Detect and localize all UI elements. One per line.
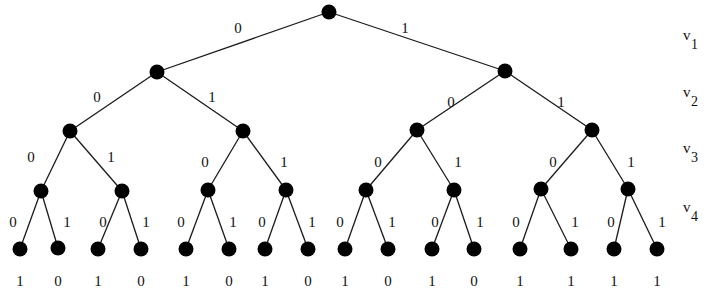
leaf-node [467, 242, 482, 257]
edge-label: 1 [107, 149, 115, 165]
edge-label: 0 [258, 214, 266, 230]
edge-label: 0 [374, 154, 382, 170]
leaf-value: 0 [304, 273, 312, 289]
tree-node [34, 184, 49, 199]
tree-node [201, 183, 216, 198]
tree-edge [265, 190, 286, 249]
edge-label: 1 [401, 20, 409, 36]
tree-edge [345, 190, 366, 249]
tree-node [63, 124, 78, 139]
decision-tree-diagram: 010101010101010101010101010101 101010101… [0, 0, 711, 294]
leaf-value: 1 [182, 273, 190, 289]
tree-edge [122, 191, 141, 249]
tree-edge [41, 191, 58, 248]
edge-label: 1 [571, 214, 579, 230]
leaf-value: 1 [567, 273, 575, 289]
tree-edge [186, 190, 208, 249]
leaf-node [607, 242, 622, 257]
tree-edge [329, 12, 505, 71]
edge-label: 0 [447, 94, 455, 110]
tree-edge [286, 190, 308, 249]
leaf-node [338, 242, 353, 257]
tree-node [410, 123, 425, 138]
leaf-node [564, 242, 579, 257]
tree-edge [41, 131, 70, 191]
leaf-value: 1 [341, 273, 349, 289]
edge-label: 1 [627, 154, 635, 170]
tree-edge [20, 191, 41, 249]
leaf-node [91, 242, 106, 257]
edge-label: 0 [234, 20, 242, 36]
tree-node [447, 183, 462, 198]
edge-label: 0 [201, 154, 209, 170]
tree-edge [520, 189, 541, 249]
variable-labels-layer: v1v2v3v4 [683, 27, 698, 224]
tree-edge [541, 189, 571, 249]
variable-subscript: 2 [691, 94, 698, 109]
leaf-value: 0 [384, 273, 392, 289]
edge-label: 1 [454, 154, 462, 170]
edge-label: 1 [142, 214, 150, 230]
edge-label: 1 [388, 214, 396, 230]
edge-label: 1 [476, 214, 484, 230]
tree-node [236, 124, 251, 139]
leaf-values-layer: 1010101010101111 [16, 273, 661, 289]
leaf-value: 1 [516, 273, 524, 289]
tree-edge [366, 190, 388, 249]
leaf-node [13, 242, 28, 257]
variable-subscript: 1 [691, 37, 698, 52]
edge-label: 1 [557, 94, 565, 110]
tree-edge [417, 130, 454, 190]
tree-edge [614, 189, 628, 249]
edge-label: 1 [63, 214, 71, 230]
edge-label: 0 [27, 149, 35, 165]
variable-subscript: 4 [691, 209, 698, 224]
tree-edge [208, 190, 229, 249]
leaf-node [425, 242, 440, 257]
leaf-value: 1 [428, 273, 436, 289]
edge-label: 0 [177, 214, 185, 230]
variable-label: v [683, 84, 691, 100]
leaf-value: 1 [94, 273, 102, 289]
leaf-node [650, 242, 665, 257]
tree-node [279, 183, 294, 198]
edge-label: 1 [229, 214, 237, 230]
leaf-node [513, 242, 528, 257]
edge-label: 0 [93, 89, 101, 105]
leaf-node [51, 241, 66, 256]
leaf-node [134, 242, 149, 257]
edge-label: 1 [208, 89, 216, 105]
edge-label: 0 [99, 214, 107, 230]
leaf-node [222, 242, 237, 257]
tree-edge [208, 131, 243, 190]
tree-edge [628, 189, 657, 249]
edge-label: 0 [336, 214, 344, 230]
leaf-node [381, 242, 396, 257]
edge-label: 0 [549, 154, 557, 170]
edge-label: 1 [658, 214, 666, 230]
tree-node [359, 183, 374, 198]
leaf-value: 0 [137, 273, 145, 289]
leaf-value: 1 [16, 273, 24, 289]
leaf-node [258, 242, 273, 257]
edge-labels-layer: 010101010101010101010101010101 [9, 20, 666, 230]
leaf-value: 0 [470, 273, 478, 289]
variable-label: v [683, 199, 691, 215]
variable-label: v [683, 140, 691, 156]
variable-label: v [683, 27, 691, 43]
leaf-value: 0 [54, 273, 62, 289]
tree-node [534, 182, 549, 197]
leaf-value: 1 [653, 273, 661, 289]
edge-label: 1 [308, 214, 316, 230]
tree-node [498, 64, 513, 79]
tree-edge [417, 71, 505, 130]
tree-node [150, 65, 165, 80]
tree-edge [157, 72, 243, 131]
leaf-node [179, 242, 194, 257]
edge-label: 0 [9, 214, 17, 230]
edge-label: 0 [431, 214, 439, 230]
variable-subscript: 3 [691, 150, 698, 165]
tree-node [585, 123, 600, 138]
leaf-value: 1 [610, 273, 618, 289]
tree-edge [592, 130, 628, 189]
